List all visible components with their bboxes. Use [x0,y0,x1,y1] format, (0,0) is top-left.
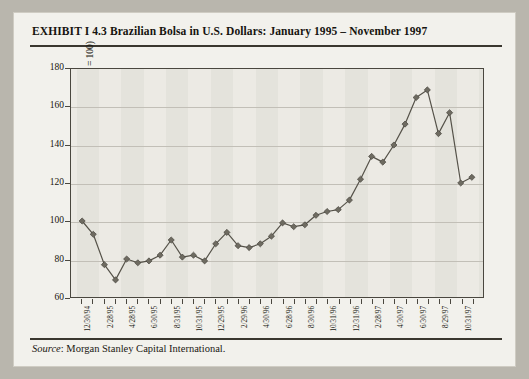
x-axis-tick-mark [182,299,183,304]
x-axis-tick-mark [238,299,239,304]
source-label: Source [32,343,61,354]
x-axis-tick-mark [327,299,328,304]
x-axis-tick-mark [316,299,317,304]
series-line-chart [71,69,483,297]
data-point-marker [447,110,453,116]
x-axis-tick-mark [126,299,127,304]
data-point-marker [402,121,408,127]
x-axis-tick-mark [428,299,429,304]
x-axis-tick-mark [406,299,407,304]
y-axis-tick-mark [65,221,70,222]
y-axis-tick-mark [65,183,70,184]
data-point-marker [190,252,196,258]
x-axis-tick-mark [81,299,82,304]
x-axis-tick-label: 8/29/97 [442,306,450,328]
data-point-marker [246,245,252,251]
data-point-marker [179,254,185,260]
y-axis-tick-label: 80 [38,254,64,264]
source-text: : Morgan Stanley Capital International. [61,343,226,354]
x-axis-tick-mark [450,299,451,304]
x-axis-tick-mark [171,299,172,304]
y-axis-tick-label: 120 [38,177,64,187]
source-note: Source: Morgan Stanley Capital Internati… [32,343,225,354]
y-axis-tick-mark [65,106,70,107]
series-polyline [82,90,472,280]
data-point-marker [469,174,475,180]
y-axis-tick-label: 60 [38,292,64,302]
data-point-marker [124,256,130,262]
x-axis-tick-label: 8/31/95 [174,306,182,328]
data-point-marker [357,176,363,182]
x-axis-tick-mark [417,299,418,304]
x-axis-tick-label: 6/30/97 [420,306,428,328]
x-axis-tick-label: 4/30/96 [263,306,271,328]
x-axis-tick-mark [148,299,149,304]
y-axis-tick-mark [65,68,70,69]
data-point-marker [391,142,397,148]
x-axis-tick-label: 2/28/97 [375,306,383,328]
x-axis-tick-mark [462,299,463,304]
x-axis-tick-label: 12/30/94 [84,306,92,332]
x-axis-tick-mark [294,299,295,304]
x-axis-tick-mark [439,299,440,304]
x-axis-tick-mark [92,299,93,304]
y-axis-tick-label: 180 [38,62,64,72]
y-axis-tick-label: 140 [38,139,64,149]
x-axis-tick-mark [361,299,362,304]
x-axis-tick-label: 6/30/95 [151,306,159,328]
x-axis-tick-mark [394,299,395,304]
x-axis-tick-label: 12/29/95 [218,306,226,332]
x-axis-tick-mark [271,299,272,304]
x-axis-tick-mark [283,299,284,304]
y-axis-tick-label: 100 [38,215,64,225]
x-axis-tick-label: 10/31/97 [465,306,473,332]
y-axis-tick-mark [65,260,70,261]
data-point-marker [369,153,375,159]
x-axis-tick-mark [339,299,340,304]
data-point-marker [380,159,386,165]
x-axis-tick-label: 10/31/96 [330,306,338,332]
data-point-marker [458,180,464,186]
x-axis-tick-mark [249,299,250,304]
x-axis-tick-mark [227,299,228,304]
x-axis-tick-mark [193,299,194,304]
x-axis-tick-mark [115,299,116,304]
chart-container: Index value (January 1, 1995 = 100) 6080… [14,13,515,366]
x-axis-tick-mark [104,299,105,304]
x-axis-tick-mark [350,299,351,304]
data-point-marker [202,258,208,264]
y-axis-tick-label: 160 [38,100,64,110]
x-axis-tick-label: 4/30/97 [397,306,405,328]
x-axis-tick-label: 6/28/96 [286,306,294,328]
data-point-marker [146,258,152,264]
data-point-marker [291,224,297,230]
data-point-marker [435,131,441,137]
x-axis-tick-label: 2/29/96 [241,306,249,328]
x-axis-tick-mark [204,299,205,304]
x-axis-tick-mark [160,299,161,304]
exhibit-card: EXHIBIT I 4.3 Brazilian Bolsa in U.S. Do… [14,13,515,366]
series-markers [79,87,475,283]
y-axis-tick-mark [65,145,70,146]
x-axis-tick-mark [305,299,306,304]
x-axis-tick-mark [473,299,474,304]
x-axis-tick-mark [260,299,261,304]
x-axis-tick-label: 12/31/96 [353,306,361,332]
x-axis-tick-label: 8/30/96 [308,306,316,328]
x-axis-tick-label: 10/31/95 [196,306,204,332]
source-divider [30,338,502,340]
x-axis-tick-mark [383,299,384,304]
data-point-marker [324,208,330,214]
plot-area [70,68,484,298]
x-axis-tick-mark [137,299,138,304]
x-axis-tick-mark [372,299,373,304]
data-point-marker [135,260,141,266]
x-axis-tick-mark [215,299,216,304]
y-axis-tick-mark [65,298,70,299]
x-axis-tick-label: 4/28/95 [129,306,137,328]
y-axis-tick-labels: 6080100120140160180 [36,68,64,298]
x-axis-tick-label: 2/28/95 [107,306,115,328]
